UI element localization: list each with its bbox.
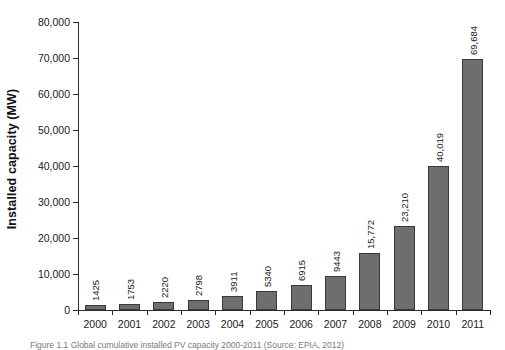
x-axis-tick — [250, 310, 251, 315]
y-axis-tick — [73, 22, 78, 23]
x-axis-tick — [318, 310, 319, 315]
x-axis-tick-label: 2011 — [462, 318, 485, 330]
x-axis-tick-label: 2010 — [427, 318, 450, 330]
x-axis-tick-label: 2004 — [221, 318, 244, 330]
x-axis-tick — [181, 310, 182, 315]
y-axis-tick-label: 80,000 — [38, 16, 70, 28]
bar — [428, 166, 449, 310]
x-axis-tick-label: 2000 — [83, 318, 106, 330]
x-axis-tick-label: 2006 — [289, 318, 312, 330]
x-axis-tick — [147, 310, 148, 315]
y-axis-tick — [73, 202, 78, 203]
figure-caption: Figure 1.1 Global cumulative installed P… — [30, 340, 490, 350]
x-axis-tick — [353, 310, 354, 315]
y-axis-tick-label: 20,000 — [38, 232, 70, 244]
y-axis-tick — [73, 58, 78, 59]
bar-value-label: 23,210 — [399, 193, 410, 222]
y-axis-tick — [73, 238, 78, 239]
y-axis-tick — [73, 274, 78, 275]
bar — [359, 253, 380, 310]
y-axis-title-label: Installed capacity (MW) — [5, 89, 19, 230]
x-axis-tick — [490, 310, 491, 315]
bar — [256, 291, 277, 310]
y-axis-title: Installed capacity (MW) — [0, 0, 24, 318]
x-axis-tick — [421, 310, 422, 315]
y-axis-tick — [73, 94, 78, 95]
y-axis-tick-label: 0 — [64, 304, 70, 316]
bar — [188, 300, 209, 310]
bar — [325, 276, 346, 310]
x-axis-tick-label: 2003 — [186, 318, 209, 330]
plot-area: 010,00020,00030,00040,00050,00060,00070,… — [78, 22, 490, 310]
x-axis-tick — [456, 310, 457, 315]
bar-value-label: 5340 — [261, 266, 272, 287]
bar — [153, 302, 174, 310]
bar — [119, 304, 140, 310]
x-axis-tick — [284, 310, 285, 315]
y-axis-tick-label: 40,000 — [38, 160, 70, 172]
x-axis-tick-label: 2001 — [118, 318, 141, 330]
bar-value-label: 40,019 — [433, 133, 444, 162]
bar-value-label: 15,772 — [364, 220, 375, 249]
x-axis-tick — [387, 310, 388, 315]
y-axis-tick — [73, 130, 78, 131]
y-axis-tick-label: 60,000 — [38, 88, 70, 100]
bar-value-label: 6915 — [296, 260, 307, 281]
x-axis-tick-label: 2009 — [392, 318, 415, 330]
x-axis-tick-label: 2008 — [358, 318, 381, 330]
y-axis-tick-label: 10,000 — [38, 268, 70, 280]
y-axis-tick-label: 50,000 — [38, 124, 70, 136]
bar-value-label: 2220 — [158, 277, 169, 298]
y-axis-tick — [73, 166, 78, 167]
bar-value-label: 1753 — [124, 279, 135, 300]
y-axis-tick-label: 30,000 — [38, 196, 70, 208]
x-axis-tick-label: 2007 — [324, 318, 347, 330]
bar — [462, 59, 483, 310]
x-axis-tick-label: 2002 — [152, 318, 175, 330]
x-axis-tick — [112, 310, 113, 315]
y-axis-tick-label: 70,000 — [38, 52, 70, 64]
bar — [222, 296, 243, 310]
bar-value-label: 1425 — [90, 280, 101, 301]
bar — [85, 305, 106, 310]
bar-value-label: 3911 — [227, 271, 238, 291]
x-axis-tick — [215, 310, 216, 315]
bar — [394, 226, 415, 310]
bar — [291, 285, 312, 310]
x-axis-tick — [78, 310, 79, 315]
bar-value-label: 69,684 — [467, 26, 478, 55]
bar-value-label: 9443 — [330, 251, 341, 272]
x-axis-tick-label: 2005 — [255, 318, 278, 330]
bar-value-label: 2798 — [193, 275, 204, 296]
y-axis-line — [78, 22, 79, 310]
